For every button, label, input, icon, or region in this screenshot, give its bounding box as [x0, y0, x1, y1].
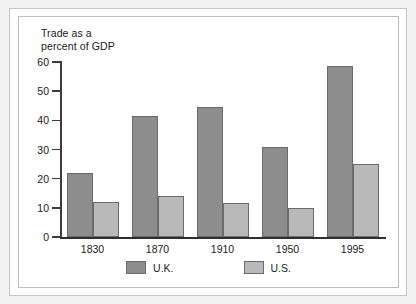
- y-axis-tick-label: 0: [19, 231, 49, 243]
- bar-uk-1995: [327, 66, 353, 237]
- x-axis-line: [60, 237, 386, 239]
- y-axis-tick-label: 50: [19, 85, 49, 97]
- x-axis-label-1995: 1995: [341, 243, 364, 255]
- bar-uk-1870: [132, 116, 158, 237]
- y-axis-tick: [52, 207, 60, 208]
- x-axis-label-1870: 1870: [146, 243, 169, 255]
- y-axis-caption: Trade as a percent of GDP: [41, 27, 115, 52]
- bar-uk-1830: [67, 173, 93, 237]
- legend-entry-uk: U.K.: [126, 261, 173, 274]
- y-axis-tick: [52, 178, 60, 179]
- bar-us-1950: [288, 208, 314, 237]
- figure-frame: Trade as a percent of GDP 0102030405060 …: [0, 0, 416, 304]
- y-axis-tick-label: 10: [19, 202, 49, 214]
- y-axis-tick-label: 30: [19, 144, 49, 156]
- legend-swatch-us: [244, 261, 264, 274]
- bar-uk-1950: [262, 147, 288, 237]
- y-axis-tick-label: 20: [19, 173, 49, 185]
- x-axis-label-1910: 1910: [211, 243, 234, 255]
- x-axis-label-1830: 1830: [81, 243, 104, 255]
- bar-us-1870: [158, 196, 184, 237]
- bar-us-1995: [353, 164, 379, 237]
- legend-entry-us: U.S.: [244, 261, 291, 274]
- legend-label-us: U.S.: [271, 262, 291, 274]
- chart-legend: U.K. U.S.: [19, 261, 398, 274]
- bar-us-1830: [93, 202, 119, 237]
- y-axis-tick-label: 60: [19, 56, 49, 68]
- y-axis-tick: [52, 236, 60, 237]
- y-axis-tick: [52, 149, 60, 150]
- y-axis-tick: [52, 61, 60, 62]
- y-axis-tick-label: 40: [19, 114, 49, 126]
- bar-us-1910: [223, 203, 249, 237]
- y-axis-tick: [52, 90, 60, 91]
- y-axis-tick: [52, 120, 60, 121]
- bar-chart: Trade as a percent of GDP 0102030405060 …: [19, 17, 398, 287]
- legend-swatch-uk: [126, 261, 146, 274]
- legend-label-uk: U.K.: [153, 262, 173, 274]
- x-axis-label-1950: 1950: [276, 243, 299, 255]
- bar-uk-1910: [197, 107, 223, 237]
- plot-area: [60, 62, 385, 237]
